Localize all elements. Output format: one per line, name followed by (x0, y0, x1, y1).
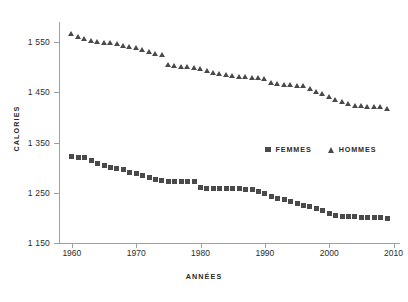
data-point-hommes (114, 41, 120, 46)
data-point-femmes (256, 189, 261, 194)
data-point-femmes (340, 214, 345, 219)
data-point-femmes (359, 215, 364, 220)
data-point-hommes (229, 73, 235, 78)
data-point-femmes (204, 186, 209, 191)
data-point-femmes (140, 173, 145, 178)
y-axis-title: CALORIES (12, 94, 21, 164)
data-point-femmes (166, 179, 171, 184)
data-point-hommes (191, 65, 197, 70)
data-point-femmes (121, 167, 126, 172)
data-point-femmes (134, 171, 139, 176)
y-tick-label: 1 550 (6, 37, 50, 47)
data-point-femmes (211, 186, 216, 191)
data-point-femmes (82, 155, 87, 160)
data-point-hommes (165, 62, 171, 67)
triangle-marker-icon (328, 147, 334, 153)
chart-legend: FEMMES HOMMES (265, 145, 376, 154)
data-point-femmes (327, 211, 332, 216)
data-point-femmes (295, 201, 300, 206)
data-point-hommes (294, 83, 300, 88)
data-point-hommes (216, 71, 222, 76)
data-point-hommes (146, 49, 152, 54)
data-point-hommes (68, 31, 74, 36)
data-point-hommes (236, 74, 242, 79)
data-point-hommes (178, 64, 184, 69)
data-point-hommes (364, 104, 370, 109)
data-point-femmes (372, 215, 377, 220)
legend-label-femmes: FEMMES (276, 145, 312, 154)
data-point-femmes (282, 197, 287, 202)
legend-item-hommes[interactable]: HOMMES (328, 145, 377, 154)
data-point-femmes (147, 175, 152, 180)
data-point-femmes (89, 158, 94, 163)
data-point-hommes (274, 81, 280, 86)
data-point-femmes (385, 216, 390, 221)
data-point-hommes (261, 76, 267, 81)
data-point-femmes (153, 177, 158, 182)
data-point-hommes (204, 68, 210, 73)
data-point-femmes (320, 208, 325, 213)
data-point-femmes (102, 163, 107, 168)
x-tick-label: 2000 (307, 248, 351, 258)
data-point-femmes (198, 185, 203, 190)
y-tick (54, 143, 59, 144)
square-marker-icon (265, 147, 271, 153)
data-point-hommes (332, 97, 338, 102)
data-point-hommes (133, 45, 139, 50)
data-point-femmes (365, 215, 370, 220)
data-point-hommes (345, 101, 351, 106)
data-point-femmes (243, 187, 248, 192)
data-point-femmes (301, 203, 306, 208)
y-tick (54, 42, 59, 43)
data-point-femmes (69, 154, 74, 159)
legend-label-hommes: HOMMES (339, 145, 377, 154)
data-point-femmes (108, 165, 113, 170)
y-tick (54, 193, 59, 194)
data-point-hommes (210, 70, 216, 75)
data-point-femmes (378, 215, 383, 220)
data-point-hommes (371, 104, 377, 109)
data-point-femmes (172, 179, 177, 184)
data-point-femmes (288, 199, 293, 204)
data-point-hommes (249, 75, 255, 80)
y-axis-line (59, 22, 60, 244)
data-point-hommes (319, 91, 325, 96)
data-point-femmes (179, 179, 184, 184)
data-point-hommes (326, 94, 332, 99)
data-point-femmes (346, 214, 351, 219)
data-point-hommes (184, 64, 190, 69)
data-point-hommes (377, 104, 383, 109)
data-point-hommes (287, 82, 293, 87)
data-point-femmes (250, 187, 255, 192)
x-tick-label: 1960 (50, 248, 94, 258)
y-tick (54, 243, 59, 244)
data-point-hommes (223, 72, 229, 77)
data-point-femmes (95, 161, 100, 166)
data-point-hommes (307, 86, 313, 91)
data-point-hommes (94, 39, 100, 44)
data-point-hommes (171, 63, 177, 68)
data-point-hommes (152, 51, 158, 56)
data-point-hommes (101, 40, 107, 45)
y-tick-label: 1 250 (6, 188, 50, 198)
data-point-hommes (281, 82, 287, 87)
data-point-hommes (126, 44, 132, 49)
data-point-femmes (127, 170, 132, 175)
data-point-femmes (224, 186, 229, 191)
data-point-femmes (230, 186, 235, 191)
data-point-hommes (120, 43, 126, 48)
data-point-hommes (313, 89, 319, 94)
data-point-hommes (139, 47, 145, 52)
data-point-femmes (185, 179, 190, 184)
data-point-femmes (269, 194, 274, 199)
data-point-femmes (159, 178, 164, 183)
y-tick-label: 1 150 (6, 238, 50, 248)
data-point-hommes (300, 83, 306, 88)
data-point-femmes (192, 179, 197, 184)
x-axis-title: ANNÉES (0, 272, 408, 281)
x-axis-line (59, 243, 400, 244)
legend-item-femmes[interactable]: FEMMES (265, 145, 312, 154)
data-point-hommes (268, 80, 274, 85)
data-point-hommes (197, 66, 203, 71)
y-tick (54, 92, 59, 93)
